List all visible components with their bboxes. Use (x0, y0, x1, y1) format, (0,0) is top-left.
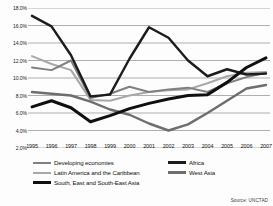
legend-swatch-icon (168, 171, 186, 173)
plot-area (28, 8, 270, 148)
legend-swatch-icon (168, 161, 186, 163)
x-tick-label: 2007 (260, 142, 272, 150)
y-tick-label: 16.0% (13, 23, 27, 28)
x-tick-label: 2006 (241, 142, 253, 150)
x-tick-label: 2002 (163, 142, 175, 150)
x-tick-label: 2000 (124, 142, 136, 150)
y-tick-label: 12.0% (13, 58, 27, 63)
x-tick-label: 1996 (46, 142, 58, 150)
y-axis-tick-labels: 18.0%16.0%14.0%12.0%10.0%8.0%6.0%4.0%2.0… (1, 8, 27, 148)
x-tick-label: 1999 (104, 142, 116, 150)
y-tick-label: 18.0% (13, 6, 27, 11)
x-tick-label: 1998 (85, 142, 97, 150)
legend-label: Latin America and the Caribbean (54, 169, 140, 177)
legend-column-right: AfricaWest Asia (168, 158, 268, 178)
legend-swatch-icon (33, 162, 51, 164)
x-tick-label: 2005 (221, 142, 233, 150)
chart-title-clipped (0, 0, 273, 6)
y-tick-label: 4.0% (16, 128, 27, 133)
legend-item[interactable]: Developing economies (33, 158, 163, 167)
legend-column-left: Developing economiesLatin America and th… (33, 158, 163, 188)
x-tick-label: 2003 (182, 142, 194, 150)
series-line (32, 58, 266, 122)
line-chart-svg (28, 8, 270, 148)
y-tick-label: 10.0% (13, 76, 27, 81)
legend-label: Africa (189, 159, 204, 167)
legend-label: South, East and South-East Asia (54, 179, 139, 187)
series-line (32, 16, 266, 97)
x-tick-label: 2001 (143, 142, 155, 150)
legend-item[interactable]: Africa (168, 158, 268, 167)
plot-wrapper: 18.0%16.0%14.0%12.0%10.0%8.0%6.0%4.0%2.0… (0, 8, 273, 154)
legend-label: Developing economies (54, 159, 114, 167)
legend-label: West Asia (189, 169, 215, 177)
chart-figure: 18.0%16.0%14.0%12.0%10.0%8.0%6.0%4.0%2.0… (0, 0, 273, 206)
legend-swatch-icon (33, 181, 51, 184)
x-axis-tick-labels: 1995199619971998199920002001200220032004… (28, 142, 270, 154)
legend-item[interactable]: Latin America and the Caribbean (33, 168, 163, 177)
legend-swatch-icon (33, 172, 51, 174)
y-tick-label: 6.0% (16, 111, 27, 116)
legend-item[interactable]: West Asia (168, 168, 268, 177)
source-note: Source: UNCTAD (231, 198, 268, 203)
y-tick-label: 14.0% (13, 41, 27, 46)
chart-legend: Developing economiesLatin America and th… (0, 158, 273, 188)
y-tick-label: 8.0% (16, 93, 27, 98)
x-tick-label: 2004 (202, 142, 214, 150)
x-tick-label: 1995 (26, 142, 38, 150)
legend-item[interactable]: South, East and South-East Asia (33, 178, 163, 187)
x-tick-label: 1997 (65, 142, 77, 150)
